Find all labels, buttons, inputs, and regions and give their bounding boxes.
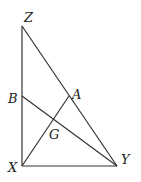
triangle-diagram: Z B A G X Y xyxy=(0,0,141,182)
diagram-svg: Z B A G X Y xyxy=(0,0,141,182)
label-y: Y xyxy=(121,152,131,167)
label-z: Z xyxy=(23,10,34,25)
segment-by xyxy=(22,96,117,166)
label-a: A xyxy=(71,87,81,102)
segment-xa xyxy=(22,96,69,166)
label-g: G xyxy=(49,127,59,142)
label-b: B xyxy=(7,91,18,106)
label-x: X xyxy=(7,160,18,175)
